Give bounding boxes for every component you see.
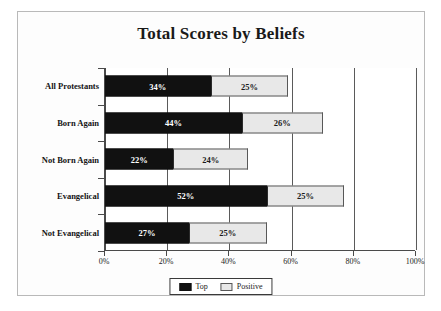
bar-segment-positive[interactable]: 25%	[189, 222, 267, 243]
y-axis-category-label: Evangelical	[18, 191, 104, 201]
bar-value-label: 44%	[165, 119, 182, 128]
bar-stack: 52%25%	[105, 186, 344, 207]
legend-label: Top	[195, 282, 207, 291]
bar-segment-top[interactable]: 27%	[105, 222, 189, 243]
bar-value-label: 25%	[241, 82, 258, 91]
plot-area-wrapper: 34%25%44%26%22%24%52%25%27%25%	[104, 68, 415, 251]
plot-area: 34%25%44%26%22%24%52%25%27%25%	[104, 68, 415, 251]
bar-value-label: 26%	[274, 119, 291, 128]
x-axis-tick	[415, 251, 416, 256]
light-gray-swatch-icon	[221, 283, 233, 291]
bar-row: 22%24%	[105, 141, 415, 178]
legend-item-top[interactable]: Top	[179, 282, 207, 291]
bar-segment-positive[interactable]: 25%	[267, 186, 345, 207]
x-axis-tick-label: 20%	[159, 257, 174, 266]
bar-segment-top[interactable]: 44%	[105, 112, 242, 133]
y-axis-category-label: All Protestants	[18, 81, 104, 91]
bar-row: 44%26%	[105, 105, 415, 142]
x-axis-tick-label: 60%	[283, 257, 298, 266]
x-axis-tick	[166, 251, 167, 256]
bar-value-label: 22%	[131, 155, 148, 164]
y-axis-category-label: Born Again	[18, 118, 104, 128]
x-axis-tick-label: 100%	[406, 257, 425, 266]
chart-title: Total Scores by Beliefs	[18, 24, 424, 44]
bar-value-label: 24%	[202, 155, 219, 164]
bar-segment-top[interactable]: 22%	[105, 149, 173, 170]
gridline-100pct	[416, 68, 417, 250]
bar-segment-positive[interactable]: 25%	[211, 76, 289, 97]
bar-segment-positive[interactable]: 24%	[173, 149, 248, 170]
bar-value-label: 25%	[297, 192, 314, 201]
chart-legend: TopPositive	[169, 278, 272, 295]
black-swatch-icon	[179, 283, 191, 291]
x-axis-tick	[228, 251, 229, 256]
legend-label: Positive	[237, 282, 263, 291]
bar-segment-top[interactable]: 52%	[105, 186, 267, 207]
bar-stack: 22%24%	[105, 149, 248, 170]
x-axis-tick-label: 40%	[221, 257, 236, 266]
bar-stack: 44%26%	[105, 112, 323, 133]
y-axis-category-label: Not Evangelical	[18, 228, 104, 238]
x-axis-tick	[291, 251, 292, 256]
x-axis: 0%20%40%60%80%100%	[104, 251, 415, 273]
x-axis-tick	[353, 251, 354, 256]
x-axis-tick-label: 0%	[99, 257, 110, 266]
bar-value-label: 25%	[219, 228, 236, 237]
bar-row: 34%25%	[105, 68, 415, 105]
x-axis-tick-label: 80%	[345, 257, 360, 266]
bar-stack: 34%25%	[105, 76, 288, 97]
figure-frame: Total Scores by Beliefs All ProtestantsB…	[17, 11, 425, 296]
y-axis-labels: All ProtestantsBorn AgainNot Born AgainE…	[18, 68, 104, 251]
bar-row: 52%25%	[105, 178, 415, 215]
bar-value-label: 52%	[177, 192, 194, 201]
bar-segment-top[interactable]: 34%	[105, 76, 211, 97]
bar-value-label: 27%	[138, 228, 155, 237]
bar-row: 27%25%	[105, 214, 415, 251]
bar-stack: 27%25%	[105, 222, 267, 243]
bar-segment-positive[interactable]: 26%	[242, 112, 323, 133]
legend-item-positive[interactable]: Positive	[221, 282, 263, 291]
bar-value-label: 34%	[149, 82, 166, 91]
y-axis-category-label: Not Born Again	[18, 155, 104, 165]
x-axis-tick	[104, 251, 105, 256]
